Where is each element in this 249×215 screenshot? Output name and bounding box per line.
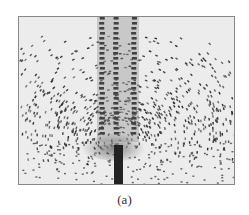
figure-image [18,16,235,185]
conductor-stem [114,145,123,185]
iron-filings-image [19,17,235,185]
figure-caption: (a) [0,192,249,208]
